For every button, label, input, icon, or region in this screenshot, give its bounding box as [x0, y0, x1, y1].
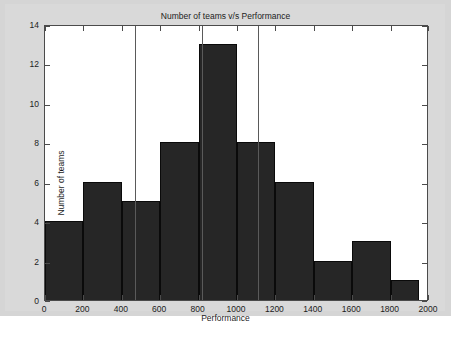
y-tick-mark: [422, 26, 427, 27]
y-tick-mark: [45, 144, 50, 145]
y-tick-label: 8: [15, 138, 39, 148]
x-tick-mark: [199, 26, 200, 31]
x-tick-mark: [428, 295, 429, 300]
y-tick-mark: [422, 65, 427, 66]
histogram-bar: [160, 142, 198, 300]
y-tick-mark: [422, 263, 427, 264]
x-tick-mark: [199, 295, 200, 300]
x-tick-mark: [83, 26, 84, 31]
x-tick-label: 2000: [408, 304, 448, 314]
x-tick-mark: [160, 26, 161, 31]
y-tick-mark: [422, 301, 427, 302]
y-axis-title: Number of teams: [56, 123, 66, 243]
x-tick-mark: [237, 26, 238, 31]
x-tick-mark: [45, 295, 46, 300]
y-tick-mark: [45, 65, 50, 66]
y-tick-mark: [422, 223, 427, 224]
x-axis-title: Performance: [0, 313, 451, 323]
x-tick-mark: [352, 26, 353, 31]
x-tick-mark: [83, 295, 84, 300]
x-tick-mark: [237, 295, 238, 300]
y-tick-label: 10: [15, 99, 39, 109]
plot-area: Number of teams: [44, 25, 428, 301]
x-tick-mark: [275, 26, 276, 31]
y-tick-label: 6: [15, 178, 39, 188]
reference-line: [202, 26, 203, 300]
x-tick-label: 1400: [293, 304, 333, 314]
x-tick-mark: [275, 295, 276, 300]
y-tick-label: 4: [15, 217, 39, 227]
y-tick-mark: [422, 184, 427, 185]
x-tick-label: 400: [101, 304, 141, 314]
y-tick-label: 14: [15, 20, 39, 30]
y-tick-mark: [45, 301, 50, 302]
histogram-bar: [237, 142, 275, 300]
x-tick-mark: [160, 295, 161, 300]
x-tick-mark: [314, 26, 315, 31]
y-tick-label: 2: [15, 257, 39, 267]
y-tick-mark: [45, 223, 50, 224]
histogram-bar: [83, 182, 121, 300]
x-tick-mark: [391, 295, 392, 300]
x-tick-mark: [352, 295, 353, 300]
y-tick-mark: [45, 26, 50, 27]
y-tick-mark: [45, 105, 50, 106]
y-tick-mark: [45, 184, 50, 185]
x-tick-mark: [122, 26, 123, 31]
x-tick-label: 1600: [331, 304, 371, 314]
chart-title: Number of teams v/s Performance: [0, 11, 451, 21]
x-tick-mark: [314, 295, 315, 300]
x-tick-label: 1200: [254, 304, 294, 314]
reference-line: [135, 26, 136, 300]
x-tick-label: 200: [62, 304, 102, 314]
y-tick-mark: [422, 144, 427, 145]
y-tick-label: 12: [15, 59, 39, 69]
x-tick-label: 1800: [370, 304, 410, 314]
y-tick-mark: [45, 263, 50, 264]
y-tick-label: 0: [15, 296, 39, 306]
y-tick-mark: [422, 105, 427, 106]
reference-line: [258, 26, 259, 300]
x-tick-mark: [391, 26, 392, 31]
histogram-bar: [391, 280, 420, 300]
x-tick-mark: [428, 26, 429, 31]
figure-panel: Number of teams v/s Performance Performa…: [0, 0, 451, 316]
histogram-bar: [122, 201, 160, 300]
x-tick-label: 1000: [216, 304, 256, 314]
x-tick-label: 600: [139, 304, 179, 314]
x-tick-mark: [122, 295, 123, 300]
histogram-bar: [199, 44, 237, 300]
x-tick-label: 800: [178, 304, 218, 314]
histogram-bar: [352, 241, 390, 300]
histogram-bar: [314, 261, 352, 300]
histogram-bar: [275, 182, 313, 300]
